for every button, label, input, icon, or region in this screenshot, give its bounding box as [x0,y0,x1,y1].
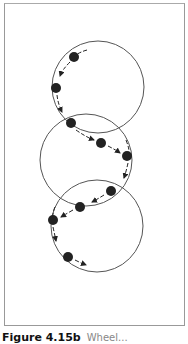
dots [48,52,132,262]
dot-7 [75,202,85,212]
middle-circle [40,114,132,206]
dot-4 [96,138,106,148]
wheel-path-diagram [0,0,188,330]
figure-caption: Figure 4.15bWheel... [2,331,128,344]
dot-3 [66,118,76,128]
dot-1 [69,52,79,62]
dot-8 [48,215,58,225]
dot-9 [63,252,73,262]
dot-2 [51,83,61,93]
dot-6 [106,186,116,196]
dot-5 [122,151,132,161]
caption-text: Wheel... [87,332,128,343]
caption-label: Figure 4.15b [2,331,81,344]
path-arrows [53,50,129,265]
